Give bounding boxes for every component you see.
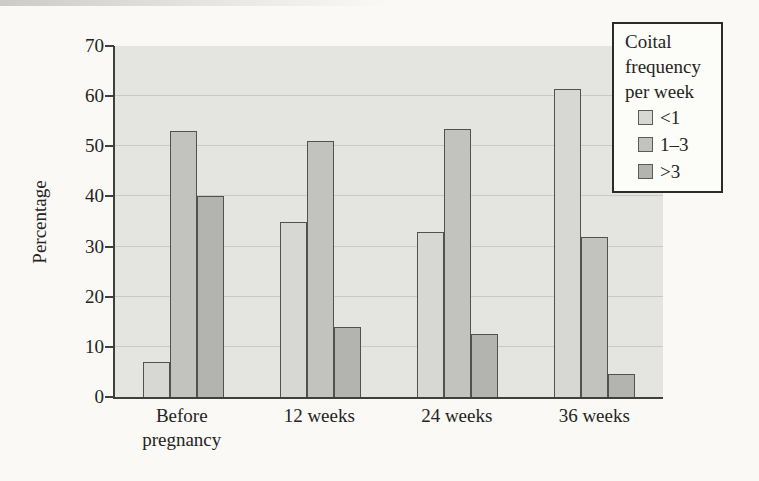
legend-swatch-1to3 — [638, 137, 653, 152]
y-tick-mark-60 — [105, 95, 114, 97]
y-tick-label-20: 20 — [58, 286, 104, 308]
legend-label: >3 — [660, 161, 680, 183]
x-tick-label: 12 weeks — [251, 404, 389, 428]
y-tick-mark-0 — [105, 396, 114, 398]
legend-swatch-lt1 — [638, 110, 653, 125]
y-tick-mark-50 — [105, 145, 114, 147]
legend-label: <1 — [660, 107, 680, 129]
y-tick-mark-30 — [105, 246, 114, 248]
bar->3-4 — [608, 374, 635, 397]
x-tick-label: Before pregnancy — [113, 404, 251, 452]
x-tick-label-text: 24 weeks — [421, 404, 492, 428]
x-tick-label-text: 12 weeks — [284, 404, 355, 428]
y-tick-label-60: 60 — [58, 85, 104, 107]
bar-1–3-1 — [170, 131, 197, 397]
legend-title: Coital frequency per week — [625, 29, 717, 104]
bar->3-3 — [471, 334, 498, 397]
y-tick-mark-70 — [105, 45, 114, 47]
bar-1–3-2 — [307, 141, 334, 397]
bar-1–3-3 — [444, 129, 471, 397]
legend-label: 1–3 — [660, 134, 689, 156]
y-tick-mark-10 — [105, 346, 114, 348]
plot-area — [113, 46, 663, 399]
legend-swatch-gt3 — [638, 164, 653, 179]
x-axis: Before pregnancy12 weeks24 weeks36 weeks — [113, 404, 663, 464]
bar->3-1 — [197, 196, 224, 397]
bar-group-3 — [389, 46, 526, 397]
bar->3-2 — [334, 327, 361, 397]
bar-<1-1 — [143, 362, 170, 397]
y-tick-label-40: 40 — [58, 185, 104, 207]
legend-item: <1 — [638, 104, 717, 131]
figure: Percentage 010203040506070 Before pregna… — [0, 0, 759, 481]
legend-item: 1–3 — [638, 131, 717, 158]
legend-title-line: frequency — [625, 54, 717, 79]
y-tick-label-0: 0 — [58, 386, 104, 408]
x-tick-label: 36 weeks — [526, 404, 664, 428]
bar-<1-2 — [280, 222, 307, 398]
bar-<1-4 — [554, 89, 581, 397]
legend-title-line: per week — [625, 79, 717, 104]
y-tick-mark-40 — [105, 195, 114, 197]
bar-group-2 — [252, 46, 389, 397]
legend-item: >3 — [638, 158, 717, 185]
x-tick-label-text: Before pregnancy — [126, 404, 238, 452]
y-tick-label-70: 70 — [58, 35, 104, 57]
bar-1–3-4 — [581, 237, 608, 397]
y-tick-label-10: 10 — [58, 336, 104, 358]
scan-edge-artifact — [0, 0, 390, 6]
y-tick-mark-20 — [105, 296, 114, 298]
y-tick-label-50: 50 — [58, 135, 104, 157]
y-tick-label-30: 30 — [58, 236, 104, 258]
bar-group-1 — [115, 46, 252, 397]
bar-<1-3 — [417, 232, 444, 397]
legend: Coital frequency per week <1 1–3 >3 — [612, 22, 723, 193]
legend-title-line: Coital — [625, 29, 717, 54]
y-axis-title: Percentage — [29, 180, 51, 263]
x-tick-label: 24 weeks — [388, 404, 526, 428]
x-tick-label-text: 36 weeks — [559, 404, 630, 428]
